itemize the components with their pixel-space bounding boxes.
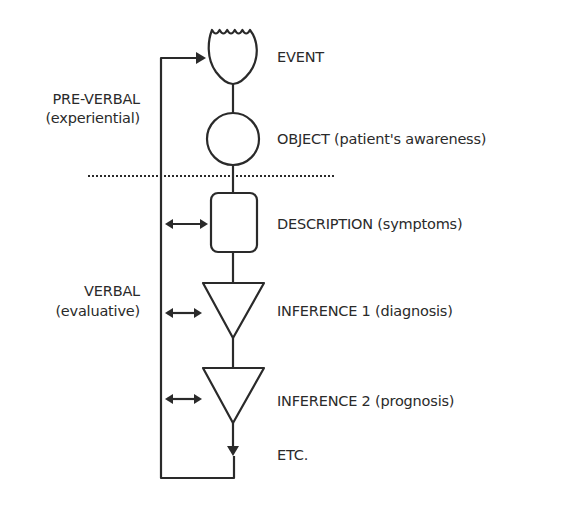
verbal-title: VERBAL bbox=[84, 282, 140, 300]
diagram-canvas bbox=[0, 0, 565, 508]
abstraction-diagram: PRE-VERBAL (experiential) VERBAL (evalua… bbox=[0, 0, 565, 508]
inference1-triangle-shape bbox=[203, 283, 264, 338]
feedback-arrowhead-icon bbox=[196, 52, 206, 64]
feedback-loop-line bbox=[161, 58, 234, 478]
etc-arrowhead-icon bbox=[227, 446, 239, 456]
verbal-subtitle: (evaluative) bbox=[55, 302, 140, 320]
inference2-triangle-shape bbox=[203, 368, 264, 423]
etc-label: ETC. bbox=[277, 446, 308, 464]
pre-verbal-subtitle: (experiential) bbox=[45, 109, 140, 127]
object-circle-shape bbox=[207, 113, 259, 165]
inference2-label: INFERENCE 2 (prognosis) bbox=[277, 392, 454, 410]
event-label: EVENT bbox=[277, 48, 324, 66]
description-rect-shape bbox=[211, 193, 257, 252]
object-label: OBJECT (patient's awareness) bbox=[277, 130, 486, 148]
pre-verbal-title: PRE-VERBAL bbox=[53, 90, 140, 108]
description-label: DESCRIPTION (symptoms) bbox=[277, 215, 462, 233]
event-tulip-shape bbox=[209, 30, 257, 84]
inference1-label: INFERENCE 1 (diagnosis) bbox=[277, 302, 453, 320]
